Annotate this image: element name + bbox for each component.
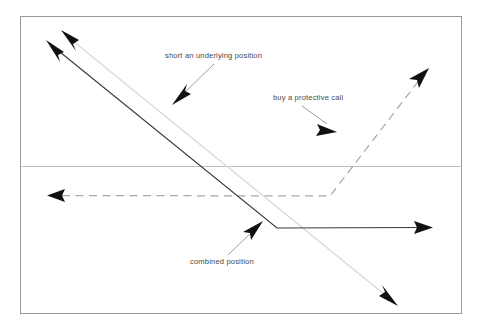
short-underlying-leader-line: [181, 64, 214, 96]
label-combined-position: combined position: [190, 258, 254, 266]
combined-position-line: [55, 48, 421, 228]
label-buy-protective-call: buy a protective call: [273, 94, 343, 102]
diagram-canvas: short an underlying position buy a prote…: [0, 0, 480, 331]
combined-position-leader-line: [228, 230, 254, 255]
payoff-diagram-svg: [0, 0, 480, 331]
short-underlying-end-arrowhead: [379, 285, 398, 306]
protective-call-leader-line: [302, 106, 327, 124]
combined-position-start-arrowhead: [46, 40, 64, 62]
diagram-frame: [21, 17, 462, 314]
label-short-underlying-position: short an underlying position: [165, 52, 262, 60]
short-underlying-start-arrowhead: [61, 30, 79, 51]
protective-call-leader-arrowhead: [316, 124, 337, 136]
protective-call-end-arrowhead: [409, 68, 429, 88]
short-underlying-leader-arrowhead: [172, 84, 191, 105]
